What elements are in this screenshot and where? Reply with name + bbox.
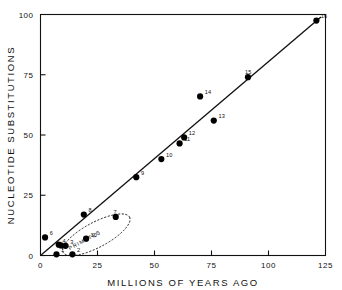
data-point-label: 3 bbox=[70, 239, 73, 245]
y-tick-label-100: 100 bbox=[19, 11, 34, 20]
data-point-label: 10 bbox=[90, 232, 97, 238]
data-point-marker bbox=[81, 211, 87, 217]
scatter-plot-figure: 02550751001250255075100PRIMATES123456789… bbox=[0, 0, 342, 290]
data-point-label: 13 bbox=[218, 113, 225, 119]
data-point-14-13: 14 bbox=[197, 89, 211, 100]
data-point-marker bbox=[176, 140, 182, 146]
data-point-13-12: 13 bbox=[211, 113, 225, 124]
data-point-label: 8 bbox=[88, 207, 91, 213]
x-tick-label-0: 0 bbox=[38, 261, 43, 270]
data-point-8-7: 8 bbox=[81, 207, 92, 218]
x-axis-title: MILLIONS OF YEARS AGO bbox=[107, 277, 259, 288]
data-point-marker bbox=[197, 93, 203, 99]
data-point-label: 15 bbox=[245, 69, 252, 75]
data-point-label: 7 bbox=[113, 209, 116, 215]
data-point-label: 14 bbox=[205, 89, 212, 95]
x-tick-label-125: 125 bbox=[318, 261, 333, 270]
data-point-marker bbox=[69, 251, 75, 257]
x-tick-label-100: 100 bbox=[261, 261, 276, 270]
data-point-15-14: 15 bbox=[245, 69, 252, 80]
data-point-label: 10 bbox=[166, 152, 173, 158]
y-tick-label-25: 25 bbox=[24, 191, 34, 200]
data-point-marker bbox=[53, 251, 59, 257]
y-tick-label-50: 50 bbox=[24, 131, 34, 140]
y-axis-title: NUCLEOTIDE SUBSTITUTIONS bbox=[5, 46, 16, 224]
y-tick-label-0: 0 bbox=[29, 252, 34, 261]
data-point-label: 2 bbox=[77, 247, 80, 253]
data-point-marker bbox=[133, 174, 139, 180]
data-point-marker bbox=[158, 156, 164, 162]
x-tick-label-75: 75 bbox=[207, 261, 217, 270]
data-point-marker bbox=[42, 234, 48, 240]
data-point-marker bbox=[181, 134, 187, 140]
data-point-marker bbox=[58, 242, 64, 248]
chart-canvas: 02550751001250255075100PRIMATES123456789… bbox=[0, 0, 342, 290]
data-point-label: 12 bbox=[189, 130, 196, 136]
data-point-label: 5 bbox=[65, 243, 68, 249]
data-point-7-6: 7 bbox=[113, 209, 119, 220]
y-tick-label-75: 75 bbox=[24, 71, 34, 80]
data-point-label: 16 bbox=[321, 13, 328, 19]
data-point-6-5: 6 bbox=[42, 230, 53, 240]
regression-line bbox=[41, 17, 321, 256]
x-tick-label-50: 50 bbox=[150, 261, 160, 270]
data-point-marker bbox=[245, 74, 251, 80]
data-point-label: 6 bbox=[50, 230, 53, 236]
data-point-marker bbox=[313, 17, 319, 23]
data-point-marker bbox=[211, 117, 217, 123]
data-point-label: 9 bbox=[141, 170, 144, 176]
data-point-marker bbox=[83, 236, 89, 242]
x-tick-label-25: 25 bbox=[93, 261, 103, 270]
